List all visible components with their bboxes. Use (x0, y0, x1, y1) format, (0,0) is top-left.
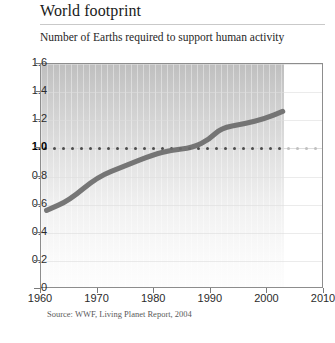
source-note: Source: WWF, Living Planet Report, 2004 (47, 309, 192, 319)
header-divider (40, 24, 325, 25)
x-axis-tick-label: 1980 (141, 292, 165, 304)
x-axis-tick-mark (40, 288, 41, 293)
x-axis-tick-mark (210, 288, 211, 293)
x-axis-tick-mark (266, 288, 267, 293)
y-axis-tick-label: 0.6 (32, 197, 47, 209)
y-axis-tick-label: 1.6 (32, 56, 47, 68)
x-axis-tick-label: 1990 (198, 292, 222, 304)
footprint-line-series (41, 64, 322, 287)
x-axis-tick-mark (323, 288, 324, 293)
y-axis-tick-mark (34, 232, 40, 233)
y-axis-tick-mark (34, 147, 40, 148)
y-axis-tick-mark (34, 91, 40, 92)
y-axis-tick-label: 1.0 (32, 140, 47, 152)
x-axis-tick-mark (97, 288, 98, 293)
page-title: World footprint (40, 2, 141, 20)
y-axis-tick-label: 1.4 (32, 84, 47, 96)
y-axis-tick-mark (34, 260, 40, 261)
x-axis-tick-label: 2000 (254, 292, 278, 304)
plot-area (40, 63, 323, 288)
y-axis-tick-mark (34, 204, 40, 205)
y-axis-tick-label: 0.2 (32, 253, 47, 265)
x-axis-tick-label: 1970 (84, 292, 108, 304)
y-axis-tick-label: 0.8 (32, 169, 47, 181)
y-axis-tick-label: 0.4 (32, 225, 47, 237)
chart-subtitle: Number of Earths required to support hum… (40, 30, 310, 44)
y-axis-tick-mark (34, 63, 40, 64)
x-axis-tick-mark (153, 288, 154, 293)
x-axis-tick-label: 1960 (28, 292, 52, 304)
y-axis-tick-mark (34, 176, 40, 177)
y-axis-tick-mark (34, 119, 40, 120)
y-axis-tick-label: 1.2 (32, 112, 47, 124)
x-axis-tick-label: 2010 (311, 292, 335, 304)
